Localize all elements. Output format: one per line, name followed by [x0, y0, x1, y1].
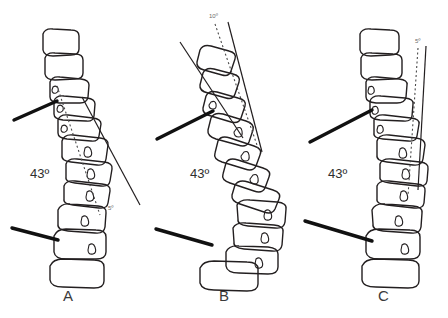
- panel-b-endplate-line: [228, 22, 262, 152]
- panel-c-vertebrae: [360, 29, 428, 288]
- panel-c-cobb-angle-label: 43º: [328, 166, 347, 181]
- panel-a-letter: A: [63, 287, 74, 304]
- panel-c-vertical-reference-line: [418, 46, 426, 190]
- panel-b-letter: B: [219, 287, 230, 304]
- panel-c-tilt-angle-label: 5º: [415, 38, 421, 44]
- panel-c-cobb-marker-upper: [310, 110, 372, 142]
- panel-a-vertebrae: [43, 29, 112, 288]
- spine-figure: 43º 5º A 43º 10º B 43º 5º C: [0, 0, 448, 318]
- panel-b-cobb-marker-upper: [157, 111, 213, 139]
- spine-illustration-canvas: [0, 0, 448, 318]
- panel-c-dotted-axis: [408, 48, 418, 196]
- panel-a-tilt-angle-label: 5º: [108, 205, 114, 211]
- panel-b-vertebrae: [197, 46, 286, 292]
- panel-a-cobb-marker-upper: [14, 101, 57, 120]
- panel-b-group: [156, 22, 286, 291]
- panel-a-cobb-angle-label: 43º: [30, 166, 49, 181]
- panel-b-cobb-angle-label: 43º: [190, 166, 209, 181]
- panel-c-group: [305, 29, 428, 288]
- panel-a-group: [12, 29, 140, 288]
- panel-a-cobb-marker-lower: [12, 228, 58, 240]
- panel-b-cobb-marker-lower: [156, 229, 212, 245]
- panel-c-cobb-marker-lower: [305, 221, 372, 241]
- panel-b-tilt-angle-label: 10º: [209, 13, 218, 19]
- panel-c-letter: C: [378, 287, 389, 304]
